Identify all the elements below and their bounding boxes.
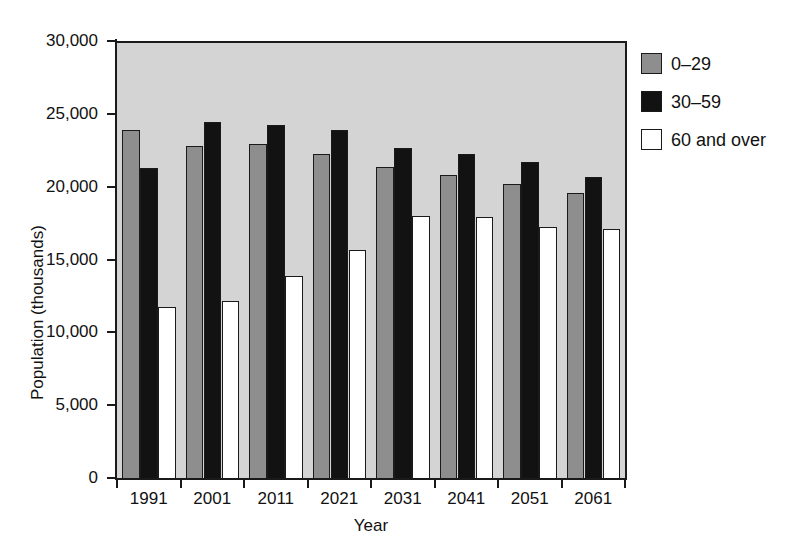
- bar: [222, 301, 240, 480]
- y-tick-label: 10,000: [46, 323, 98, 340]
- x-tick-mark: [243, 479, 245, 488]
- x-tick-mark: [434, 479, 436, 488]
- bar: [412, 216, 430, 480]
- x-tick-mark: [180, 479, 182, 488]
- bar: [376, 167, 394, 480]
- bar: [567, 193, 585, 480]
- bar: [603, 229, 621, 480]
- plot-area: [117, 41, 627, 480]
- y-tick-mark: [107, 477, 116, 479]
- x-tick-label: 2041: [435, 489, 499, 508]
- bar: [458, 154, 476, 480]
- bar: [186, 146, 204, 480]
- bar: [267, 125, 285, 480]
- bar: [440, 175, 458, 480]
- bars-layer: [117, 43, 625, 480]
- y-tick-label: 15,000: [46, 251, 98, 268]
- bar: [331, 130, 349, 480]
- x-axis-title: Year: [117, 516, 625, 536]
- bar: [394, 148, 412, 480]
- legend-item-0-29: 0–29: [641, 48, 786, 79]
- y-tick-label: 25,000: [46, 105, 98, 122]
- bar: [249, 144, 267, 480]
- legend-swatch-icon-60-and-over: [641, 129, 662, 150]
- legend-item-30-59: 30–59: [641, 86, 786, 117]
- x-tick-mark: [624, 479, 626, 488]
- bar: [539, 227, 557, 480]
- x-tick-label: 2021: [308, 489, 372, 508]
- bar: [122, 130, 140, 480]
- bar: [503, 184, 521, 480]
- bar: [521, 162, 539, 480]
- bar: [476, 217, 494, 480]
- x-tick-label: 2001: [181, 489, 245, 508]
- bar: [285, 276, 303, 480]
- y-tick-label: 5,000: [55, 396, 98, 413]
- y-tick-label: 30,000: [46, 32, 98, 49]
- legend-label-60-and-over: 60 and over: [671, 131, 766, 149]
- legend-label-30-59: 30–59: [671, 93, 721, 111]
- bar: [140, 168, 158, 480]
- y-axis-title: Population (thousands): [28, 225, 48, 400]
- bar: [204, 122, 222, 480]
- x-tick-label: 1991: [117, 489, 181, 508]
- legend-label-0-29: 0–29: [671, 55, 711, 73]
- bar: [313, 154, 331, 480]
- x-tick-label: 2031: [371, 489, 435, 508]
- x-tick-mark: [307, 479, 309, 488]
- y-tick-mark: [107, 186, 116, 188]
- legend: 0–29 30–59 60 and over: [641, 48, 786, 162]
- bar: [158, 307, 176, 480]
- y-tick-mark: [107, 331, 116, 333]
- bar: [585, 177, 603, 480]
- y-tick-mark: [107, 113, 116, 115]
- y-tick-label: 20,000: [46, 178, 98, 195]
- legend-swatch-icon-30-59: [641, 91, 662, 112]
- x-tick-mark: [497, 479, 499, 488]
- x-tick-label: 2051: [498, 489, 562, 508]
- x-tick-mark: [370, 479, 372, 488]
- y-tick-label: 0: [89, 469, 98, 486]
- y-tick-mark: [107, 404, 116, 406]
- top-cut-text: [0, 0, 790, 1]
- bar: [349, 250, 367, 480]
- x-tick-label: 2011: [244, 489, 308, 508]
- x-tick-label: 2061: [562, 489, 626, 508]
- y-tick-mark: [107, 259, 116, 261]
- population-bar-chart: 05,00010,00015,00020,00025,00030,000 199…: [0, 0, 790, 542]
- y-tick-mark: [107, 40, 116, 42]
- x-tick-mark: [116, 479, 118, 488]
- legend-swatch-icon-0-29: [641, 53, 662, 74]
- legend-item-60-and-over: 60 and over: [641, 124, 786, 155]
- x-tick-mark: [561, 479, 563, 488]
